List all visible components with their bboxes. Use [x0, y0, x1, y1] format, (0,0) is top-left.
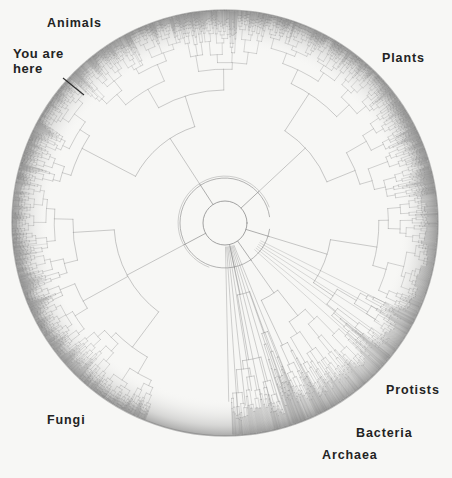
label-fungi: Fungi	[47, 414, 86, 428]
label-bacteria: Bacteria	[356, 427, 413, 441]
label-you-are-here-line2: here	[13, 61, 43, 76]
label-protists: Protists	[386, 384, 440, 398]
label-archaea: Archaea	[322, 449, 378, 463]
tree-of-life-figure: Animals You arehere Plants Protists Bact…	[0, 0, 452, 478]
phylogenetic-tree-canvas	[0, 0, 452, 478]
label-you-are-here-line1: You are	[13, 46, 64, 61]
label-animals: Animals	[47, 17, 102, 31]
tree-rim-shading	[12, 10, 438, 436]
label-plants: Plants	[382, 52, 425, 66]
label-you-are-here: You arehere	[13, 47, 64, 76]
